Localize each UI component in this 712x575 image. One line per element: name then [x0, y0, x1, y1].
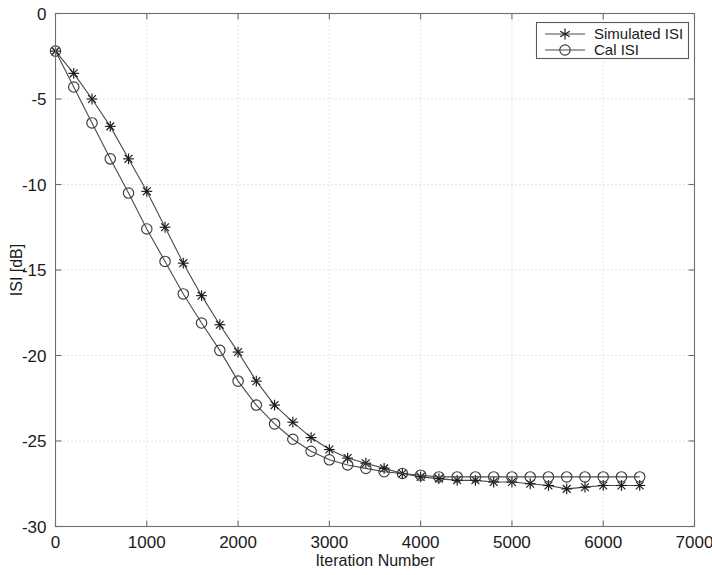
- x-tick-label: 0: [51, 533, 60, 552]
- star-marker: [160, 222, 171, 233]
- x-tick-label: 3000: [310, 533, 348, 552]
- x-tick-label: 2000: [219, 533, 257, 552]
- star-marker: [306, 432, 317, 443]
- y-tick-label: -10: [22, 176, 47, 195]
- x-tick-label: 5000: [493, 533, 531, 552]
- x-tick-label: 7000: [676, 533, 712, 552]
- y-tick-label: -15: [22, 261, 47, 280]
- star-marker: [561, 483, 572, 494]
- x-tick-label: 1000: [128, 533, 166, 552]
- legend-label-cal-isi: Cal ISI: [594, 41, 639, 58]
- star-marker: [196, 290, 207, 301]
- star-marker: [269, 400, 280, 411]
- star-marker: [178, 258, 189, 269]
- y-axis-title: ISI [dB]: [8, 244, 25, 296]
- series-cal-isi: [50, 46, 645, 482]
- x-axis-title: Iteration Number: [315, 552, 435, 569]
- star-marker: [214, 319, 225, 330]
- star-marker: [123, 153, 134, 164]
- axes-frame: [56, 14, 695, 527]
- star-marker: [580, 482, 591, 493]
- y-tick-label: 0: [37, 5, 46, 24]
- y-tick-label: -25: [22, 432, 47, 451]
- star-marker: [251, 376, 262, 387]
- star-marker: [287, 417, 298, 428]
- x-tick-label: 6000: [584, 533, 622, 552]
- star-marker: [87, 94, 98, 105]
- star-marker: [324, 444, 335, 455]
- star-marker: [233, 347, 244, 358]
- y-tick-label: -30: [22, 518, 47, 537]
- x-tick-label: 4000: [402, 533, 440, 552]
- grid-lines: [56, 14, 695, 527]
- chart-figure: 010002000300040005000600070000-5-10-15-2…: [0, 0, 712, 575]
- star-marker: [105, 121, 116, 132]
- series-line: [56, 51, 640, 477]
- y-tick-label: -20: [22, 347, 47, 366]
- y-tick-label: -5: [31, 90, 46, 109]
- axis-ticks: 010002000300040005000600070000-5-10-15-2…: [22, 5, 712, 552]
- isi-convergence-chart: 010002000300040005000600070000-5-10-15-2…: [0, 0, 712, 575]
- star-marker: [68, 68, 79, 79]
- chart-legend: Simulated ISI Cal ISI: [537, 23, 689, 59]
- legend-label-simulated-isi: Simulated ISI: [594, 25, 683, 42]
- star-marker: [141, 186, 152, 197]
